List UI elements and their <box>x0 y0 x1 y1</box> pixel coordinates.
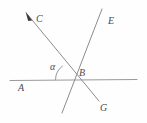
arrowhead-icon <box>26 12 33 22</box>
geometry-canvas <box>0 0 147 123</box>
ray-cg-line <box>28 15 99 101</box>
alpha-arc <box>55 66 62 80</box>
point-label-e: E <box>108 16 114 26</box>
geometry-figure: C E B A G α <box>0 0 147 123</box>
horizontal-line <box>10 80 137 81</box>
point-label-b: B <box>79 68 85 78</box>
point-label-g: G <box>100 103 107 113</box>
point-label-c: C <box>36 14 43 24</box>
point-label-a: A <box>18 83 24 93</box>
angle-label-alpha: α <box>50 62 55 72</box>
